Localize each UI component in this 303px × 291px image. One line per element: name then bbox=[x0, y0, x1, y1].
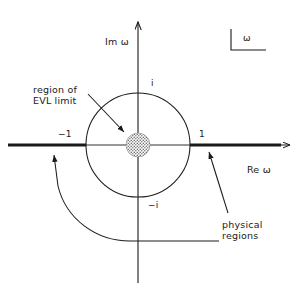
evl-limit-leader-arrow bbox=[88, 94, 124, 132]
key-omega-label: ω bbox=[243, 32, 251, 44]
imaginary-axis-label: Im ω bbox=[105, 36, 129, 48]
annotation-regions: regions bbox=[222, 230, 258, 242]
annotation-evl-limit: EVL limit bbox=[33, 95, 77, 107]
physical-regions-left-curve bbox=[54, 155, 219, 241]
tick-label-one: 1 bbox=[199, 128, 205, 140]
physical-regions-right-arrow bbox=[209, 152, 228, 213]
complex-omega-plane-figure: region of EVL limit Im ω Re ω −1 1 i −i … bbox=[0, 0, 303, 291]
tick-label-minus-i: −i bbox=[148, 199, 158, 211]
tick-label-minus-one: −1 bbox=[58, 128, 72, 140]
tick-label-plus-i: i bbox=[151, 77, 154, 89]
real-axis-label: Re ω bbox=[247, 164, 271, 176]
figure-canvas bbox=[0, 0, 303, 291]
evl-limit-region bbox=[126, 133, 150, 157]
